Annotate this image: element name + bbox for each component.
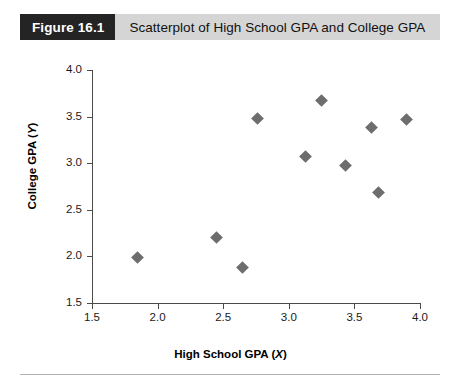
figure-header-band: Figure 16.1 Scatterplot of High School G… (20, 14, 440, 40)
data-point-marker (210, 231, 223, 244)
x-axis-tick-label: 4.0 (400, 311, 440, 323)
x-axis-tick-mark (92, 304, 93, 309)
y-axis-tick-label: 4.0 (48, 63, 82, 75)
x-axis-title: High School GPA (X) (0, 348, 461, 360)
x-axis-tick-mark (354, 304, 355, 309)
y-axis-title-variable: Y (26, 126, 38, 134)
plot-data-area (92, 70, 420, 303)
y-axis-tick-label: 3.0 (48, 156, 82, 168)
data-point-marker (237, 261, 250, 274)
data-point-marker (372, 186, 385, 199)
y-axis-tick-label: 2.5 (48, 203, 82, 215)
y-axis-tick-label: 3.5 (48, 110, 82, 122)
y-axis-tick-labels: 4.03.53.02.52.01.5 (48, 52, 82, 352)
data-point-marker (299, 150, 312, 163)
page-divider-rule (20, 374, 440, 375)
y-axis-title-text: College GPA ( (26, 134, 38, 209)
data-point-marker (132, 251, 145, 264)
x-axis-title-variable: X (275, 348, 283, 360)
x-axis-tick-label: 3.5 (334, 311, 374, 323)
x-axis-title-tail: ) (283, 348, 287, 360)
figure-caption: Scatterplot of High School GPA and Colle… (115, 14, 425, 40)
x-axis-tick-mark (420, 304, 421, 309)
x-axis-tick-mark (223, 304, 224, 309)
x-axis-tick-mark (158, 304, 159, 309)
x-axis-tick-label: 3.0 (269, 311, 309, 323)
x-axis-title-text: High School GPA ( (174, 348, 275, 360)
data-point-marker (365, 121, 378, 134)
x-axis-tick-mark (289, 304, 290, 309)
figure-number-badge: Figure 16.1 (20, 14, 115, 40)
data-point-marker (401, 113, 414, 126)
data-point-marker (251, 112, 264, 125)
data-point-marker (339, 160, 352, 173)
x-axis-tick-label: 1.5 (72, 311, 112, 323)
y-axis-tick-label: 2.0 (48, 249, 82, 261)
y-axis-title: College GPA (Y) (26, 86, 38, 246)
scatterplot-chart: 4.03.53.02.52.01.5 1.52.02.53.03.54.0 Co… (0, 52, 461, 352)
x-axis-line (92, 303, 421, 304)
y-axis-tick-label: 1.5 (48, 296, 82, 308)
x-axis-tick-label: 2.0 (138, 311, 178, 323)
y-axis-title-tail: ) (26, 123, 38, 127)
x-axis-tick-label: 2.5 (203, 311, 243, 323)
data-point-marker (315, 94, 328, 107)
